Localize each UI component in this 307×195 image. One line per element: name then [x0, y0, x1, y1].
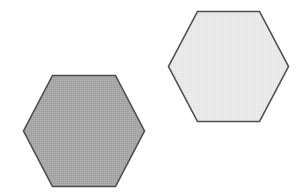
- diagram-canvas: [0, 0, 307, 195]
- hexagons-svg: [0, 0, 307, 195]
